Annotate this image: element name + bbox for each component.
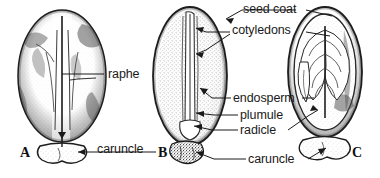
annotation-cotyledons: cotyledons xyxy=(232,24,291,37)
annotation-raphe: raphe xyxy=(108,68,139,81)
annotation-radicle: radicle xyxy=(240,124,276,137)
leader-caruncle-b xyxy=(196,151,246,159)
panel-label-b: B xyxy=(158,145,167,161)
annotation-plumule: plumule xyxy=(240,109,283,122)
seed-a-illustration xyxy=(14,10,156,163)
annotation-caruncle-a: caruncle xyxy=(97,143,143,156)
annotation-caruncle-b: caruncle xyxy=(248,153,294,166)
caruncle-a-shape xyxy=(37,142,86,163)
caruncle-c-shape xyxy=(299,137,350,160)
seed-c-illustration xyxy=(288,7,362,160)
panel-label-a: A xyxy=(20,145,30,161)
panel-label-c: C xyxy=(352,145,362,161)
annotation-endosperm: endosperm xyxy=(233,92,295,105)
annotation-seed-coat: seed coat xyxy=(243,3,296,16)
seed-diagram-svg xyxy=(0,0,380,178)
seed-anatomy-figure: raphe caruncle seed coat cotyledons endo… xyxy=(0,0,380,178)
